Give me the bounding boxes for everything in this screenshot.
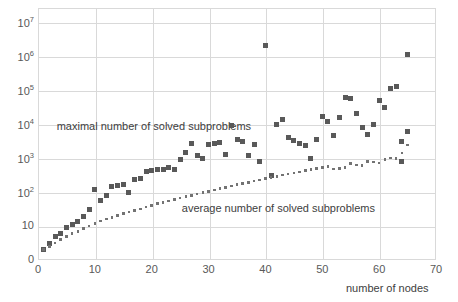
data-point-maximal [64, 225, 69, 230]
gridline-vertical [210, 9, 211, 259]
data-point-maximal [183, 150, 188, 155]
data-point-average [219, 187, 222, 190]
data-point-maximal [235, 137, 240, 142]
data-point-maximal [325, 119, 330, 124]
gridline-horizontal [39, 23, 435, 24]
data-point-average [82, 227, 85, 230]
data-point-average [361, 164, 364, 167]
data-point-average [111, 216, 114, 219]
data-point-average [241, 182, 244, 185]
y-axis-tick-label: 10 [0, 220, 34, 231]
data-point-maximal [132, 177, 137, 182]
data-point-maximal [314, 137, 319, 142]
data-point-maximal [189, 141, 194, 146]
data-point-average [372, 161, 375, 164]
data-point-average [389, 157, 392, 160]
data-point-average [65, 235, 68, 238]
data-point-average [48, 245, 51, 248]
y-axis-tick-label: 107 [0, 16, 34, 29]
data-point-average [42, 248, 45, 251]
data-point-maximal [308, 156, 313, 161]
data-point-maximal [320, 114, 325, 119]
data-point-average [293, 172, 296, 175]
x-axis-tick-label: 50 [302, 264, 342, 275]
data-point-average [77, 230, 80, 233]
data-point-average [105, 218, 108, 221]
data-point-maximal [70, 222, 75, 227]
annotation-average-series: average number of solved subproblems [182, 203, 375, 214]
data-point-average [202, 191, 205, 194]
data-point-average [116, 214, 119, 217]
data-point-average [207, 190, 210, 193]
data-point-average [71, 232, 74, 235]
x-axis-tick-label: 60 [359, 264, 399, 275]
data-point-average [145, 206, 148, 209]
data-point-maximal [252, 142, 257, 147]
data-point-maximal [303, 143, 308, 148]
data-point-average [173, 198, 176, 201]
gridline-vertical [153, 9, 154, 259]
gridline-horizontal [39, 91, 435, 92]
data-point-maximal [217, 140, 222, 145]
data-point-maximal [98, 198, 103, 203]
data-point-average [344, 166, 347, 169]
data-point-maximal [166, 165, 171, 170]
data-point-maximal [104, 193, 109, 198]
plot-area [38, 8, 436, 260]
chart-container: 010102103104105106107 010203040506070 nu… [0, 0, 458, 302]
gridline-horizontal [39, 57, 435, 58]
data-point-average [236, 183, 239, 186]
gridline-horizontal [39, 193, 435, 194]
data-point-average [287, 173, 290, 176]
data-point-maximal [75, 219, 80, 224]
gridline-vertical [323, 9, 324, 259]
data-point-average [230, 185, 233, 188]
x-axis-tick-label: 20 [132, 264, 172, 275]
data-point-maximal [371, 122, 376, 127]
gridline-horizontal [39, 227, 435, 228]
data-point-maximal [394, 84, 399, 89]
data-point-average [185, 195, 188, 198]
data-point-maximal [377, 98, 382, 103]
y-axis-tick-label: 102 [0, 186, 34, 199]
data-point-maximal [121, 182, 126, 187]
data-point-maximal [382, 105, 387, 110]
x-axis-tick-label: 30 [189, 264, 229, 275]
data-point-average [395, 157, 398, 160]
data-point-average [253, 180, 256, 183]
data-point-average [156, 202, 159, 205]
x-axis-tick-label: 70 [416, 264, 456, 275]
data-point-average [276, 175, 279, 178]
data-point-maximal [178, 157, 183, 162]
data-point-maximal [195, 153, 200, 158]
data-point-maximal [331, 133, 336, 138]
data-point-maximal [206, 142, 211, 147]
gridline-vertical [380, 9, 381, 259]
data-point-average [310, 168, 313, 171]
data-point-average [332, 168, 335, 171]
data-point-average [213, 189, 216, 192]
data-point-maximal [405, 52, 410, 57]
x-axis-tick-label: 40 [245, 264, 285, 275]
data-point-maximal [58, 231, 63, 236]
data-point-maximal [360, 125, 365, 130]
data-point-average [338, 167, 341, 170]
data-point-average [401, 152, 404, 155]
data-point-average [264, 177, 267, 180]
data-point-maximal [286, 135, 291, 140]
data-point-maximal [399, 139, 404, 144]
data-point-maximal [399, 159, 404, 164]
data-point-maximal [388, 86, 393, 91]
data-point-average [384, 158, 387, 161]
data-point-average [258, 179, 261, 182]
data-point-average [270, 176, 273, 179]
data-point-maximal [297, 141, 302, 146]
data-point-maximal [126, 190, 131, 195]
x-axis-title: number of nodes [346, 283, 429, 294]
data-point-average [247, 181, 250, 184]
x-axis-tick-label: 0 [18, 264, 58, 275]
data-point-maximal [291, 138, 296, 143]
data-point-maximal [240, 139, 245, 144]
data-point-maximal [155, 167, 160, 172]
data-point-average [298, 171, 301, 174]
